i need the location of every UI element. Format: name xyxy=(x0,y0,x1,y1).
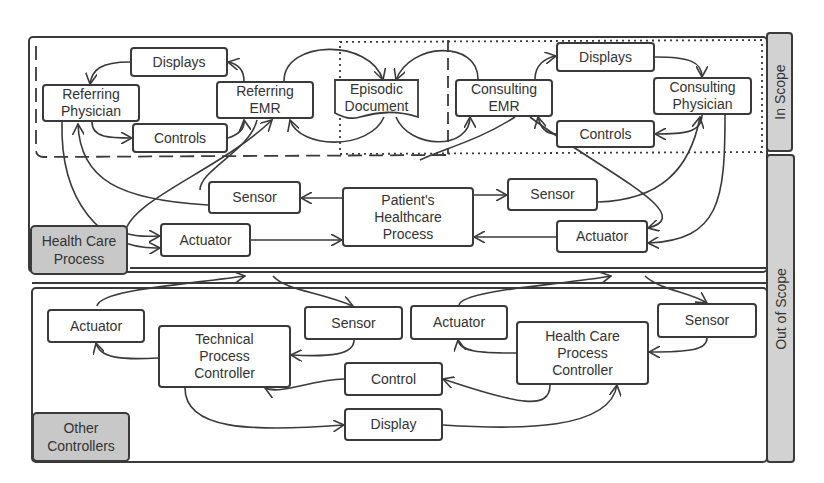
health-care-process-controller-node[interactable]: Health Care Process Controller xyxy=(516,321,649,385)
control-node[interactable]: Control xyxy=(344,362,443,396)
out-of-scope-label: Out of Scope xyxy=(773,268,789,350)
patient-healthcare-process-node[interactable]: Patient's Healthcare Process xyxy=(342,187,474,247)
referring-emr-node[interactable]: Referring EMR xyxy=(216,81,314,119)
consulting-displays-node[interactable]: Displays xyxy=(556,42,655,72)
consulting-physician-node[interactable]: Consulting Physician xyxy=(653,77,752,115)
episodic-document-node[interactable]: Episodic Document xyxy=(335,80,418,117)
referring-physician-node[interactable]: Referring Physician xyxy=(42,84,140,122)
referring-controls-node[interactable]: Controls xyxy=(132,123,228,153)
in-scope-bar: In Scope xyxy=(766,32,793,152)
oc-sensor-right-node[interactable]: Sensor xyxy=(657,303,757,338)
display-node[interactable]: Display xyxy=(344,408,443,441)
other-controllers-tag: Other Controllers xyxy=(32,412,130,462)
oc-actuator-left-node[interactable]: Actuator xyxy=(47,309,145,343)
consulting-controls-node[interactable]: Controls xyxy=(556,120,655,148)
oc-sensor-left-node[interactable]: Sensor xyxy=(304,306,403,340)
out-of-scope-bar: Out of Scope xyxy=(766,154,795,463)
in-scope-label: In Scope xyxy=(772,64,788,119)
hcp-actuator-left-node[interactable]: Actuator xyxy=(160,223,251,257)
health-care-process-tag: Health Care Process xyxy=(30,225,128,275)
diagram-canvas: In Scope Out of Scope Displays Referring… xyxy=(0,0,824,483)
technical-process-controller-node[interactable]: Technical Process Controller xyxy=(158,325,291,388)
hcp-sensor-right-node[interactable]: Sensor xyxy=(507,178,598,211)
referring-displays-node[interactable]: Displays xyxy=(130,47,228,77)
episodic-document-label: Episodic Document xyxy=(335,81,418,115)
oc-actuator-right-node[interactable]: Actuator xyxy=(410,305,508,340)
consulting-emr-node[interactable]: Consulting EMR xyxy=(455,79,553,117)
hcp-actuator-right-node[interactable]: Actuator xyxy=(556,220,648,253)
hcp-sensor-left-node[interactable]: Sensor xyxy=(208,181,301,214)
